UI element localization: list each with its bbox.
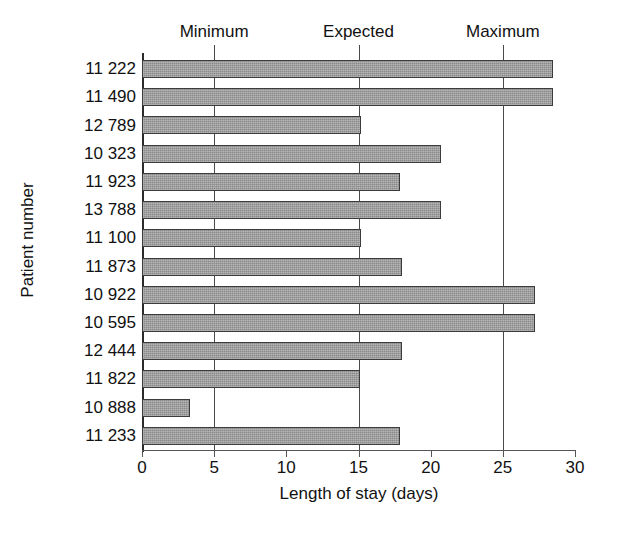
y-axis-tick-label: 11 923 bbox=[50, 172, 136, 192]
bar-row bbox=[142, 281, 575, 309]
bar-row bbox=[142, 224, 575, 252]
bar bbox=[142, 60, 553, 78]
bar-row bbox=[142, 394, 575, 422]
y-axis-tick-label: 10 595 bbox=[50, 313, 136, 333]
bar bbox=[142, 370, 360, 388]
bar-row bbox=[142, 337, 575, 365]
x-axis-tick-label: 20 bbox=[421, 458, 440, 478]
y-axis-tick-label: 13 788 bbox=[50, 200, 136, 220]
x-axis-tick bbox=[214, 450, 215, 457]
bar bbox=[142, 116, 361, 134]
bar bbox=[142, 145, 441, 163]
bar-row bbox=[142, 309, 575, 337]
x-axis-tick bbox=[575, 450, 576, 457]
y-axis-tick-label: 10 922 bbox=[50, 285, 136, 305]
y-axis-tick-label: 11 873 bbox=[50, 257, 136, 277]
reference-tick-minimum bbox=[214, 45, 215, 55]
length-of-stay-bar-chart: MinimumExpectedMaximum 11 22211 49012 78… bbox=[0, 0, 618, 537]
bar bbox=[142, 314, 535, 332]
x-axis-tick-label: 5 bbox=[209, 458, 218, 478]
x-axis-title: Length of stay (days) bbox=[142, 484, 576, 504]
x-axis-tick-label: 30 bbox=[566, 458, 585, 478]
y-axis-tick-label: 11 233 bbox=[50, 426, 136, 446]
x-axis-tick bbox=[142, 450, 143, 457]
x-axis-tick-label: 15 bbox=[349, 458, 368, 478]
bar-row bbox=[142, 196, 575, 224]
bar bbox=[142, 201, 441, 219]
reference-label-minimum: Minimum bbox=[180, 22, 249, 42]
plot-area bbox=[142, 55, 575, 450]
x-axis-tick-label: 10 bbox=[277, 458, 296, 478]
bar bbox=[142, 88, 553, 106]
x-axis-tick-label: 0 bbox=[137, 458, 146, 478]
bar-row bbox=[142, 168, 575, 196]
reference-tick-maximum bbox=[503, 45, 504, 55]
bar bbox=[142, 258, 402, 276]
y-axis-title: Patient number bbox=[18, 150, 38, 330]
y-axis-tick-label: 11 222 bbox=[50, 59, 136, 79]
bar-row bbox=[142, 422, 575, 450]
x-axis-tick bbox=[431, 450, 432, 457]
bar bbox=[142, 399, 190, 417]
bar-row bbox=[142, 365, 575, 393]
x-axis-tick bbox=[359, 450, 360, 457]
x-axis-tick bbox=[286, 450, 287, 457]
reference-label-maximum: Maximum bbox=[466, 22, 540, 42]
bar-row bbox=[142, 111, 575, 139]
y-axis-tick-label: 11 822 bbox=[50, 369, 136, 389]
y-axis-tick-label: 11 100 bbox=[50, 228, 136, 248]
bar bbox=[142, 342, 402, 360]
y-axis-tick-label: 12 789 bbox=[50, 116, 136, 136]
x-axis-tick bbox=[503, 450, 504, 457]
reference-tick-expected bbox=[359, 45, 360, 55]
bar-row bbox=[142, 253, 575, 281]
bar bbox=[142, 173, 400, 191]
bar bbox=[142, 229, 361, 247]
reference-label-expected: Expected bbox=[323, 22, 394, 42]
bar-row bbox=[142, 83, 575, 111]
y-axis-tick-label: 12 444 bbox=[50, 341, 136, 361]
x-axis-tick-label: 25 bbox=[493, 458, 512, 478]
y-axis-tick-label: 10 323 bbox=[50, 144, 136, 164]
bar-row bbox=[142, 140, 575, 168]
y-axis-tick-label: 10 888 bbox=[50, 398, 136, 418]
bar bbox=[142, 427, 400, 445]
bar-row bbox=[142, 55, 575, 83]
y-axis-tick-labels: 11 22211 49012 78910 32311 92313 78811 1… bbox=[46, 55, 136, 450]
bar bbox=[142, 286, 535, 304]
y-axis-tick-label: 11 490 bbox=[50, 87, 136, 107]
